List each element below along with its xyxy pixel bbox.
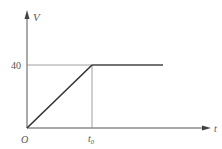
x-axis-label: t xyxy=(214,123,217,134)
origin-label: O xyxy=(21,134,28,145)
y-axis-arrow-icon xyxy=(25,10,30,19)
x-axis-arrow-icon xyxy=(202,126,211,131)
y-axis-label: V xyxy=(33,11,41,23)
x-tick-t0-subscript: 0 xyxy=(91,138,95,145)
velocity-time-chart: V 40 O t0 t xyxy=(0,0,222,149)
x-tick-t0: t0 xyxy=(88,133,95,145)
y-tick-40: 40 xyxy=(11,60,21,71)
series-ramp xyxy=(27,65,92,128)
